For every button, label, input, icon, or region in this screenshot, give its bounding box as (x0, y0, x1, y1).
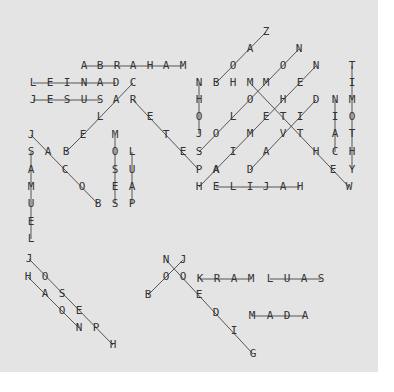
grid-letter[interactable]: S (193, 145, 205, 159)
word-search-board[interactable]: ZAOBNOMOLOSNEHEMIAHDIVADMTTHEWHTIMOTHYNI… (0, 0, 378, 372)
grid-letter[interactable]: P (193, 163, 205, 177)
grid-letter[interactable]: O (39, 270, 51, 284)
grid-letter[interactable]: O (160, 270, 172, 284)
grid-letter[interactable]: S (109, 163, 121, 177)
grid-letter[interactable]: E (210, 180, 222, 194)
grid-letter[interactable]: B (142, 288, 154, 302)
grid-letter[interactable]: A (126, 180, 138, 194)
grid-letter[interactable]: A (228, 272, 240, 286)
grid-letter[interactable]: M (246, 309, 258, 323)
grid-letter[interactable]: H (310, 145, 322, 159)
grid-letter[interactable]: H (193, 93, 205, 107)
grid-letter[interactable]: S (109, 197, 121, 211)
grid-letter[interactable]: I (346, 76, 358, 90)
grid-letter[interactable]: S (25, 145, 37, 159)
grid-letter[interactable]: A (127, 59, 139, 73)
grid-letter[interactable]: P (126, 197, 138, 211)
grid-letter[interactable]: S (56, 287, 68, 301)
grid-letter[interactable]: U (25, 197, 37, 211)
grid-letter[interactable]: O (227, 59, 239, 73)
grid-letter[interactable]: T (294, 127, 306, 141)
grid-letter[interactable]: A (110, 93, 122, 107)
grid-letter[interactable]: K (194, 272, 206, 286)
grid-letter[interactable]: E (294, 76, 306, 90)
grid-letter[interactable]: Y (346, 163, 358, 177)
grid-letter[interactable]: U (126, 163, 138, 177)
grid-letter[interactable]: A (160, 59, 172, 73)
grid-letter[interactable]: N (193, 76, 205, 90)
grid-letter[interactable]: S (315, 272, 327, 286)
grid-letter[interactable]: A (78, 59, 90, 73)
grid-letter[interactable]: L (25, 232, 37, 246)
grid-letter[interactable]: E (144, 110, 156, 124)
grid-letter[interactable]: A (298, 272, 310, 286)
grid-letter[interactable]: E (44, 76, 56, 90)
grid-letter[interactable]: O (210, 127, 222, 141)
grid-letter[interactable]: H (107, 338, 119, 352)
grid-letter[interactable]: A (277, 180, 289, 194)
grid-letter[interactable]: L (27, 76, 39, 90)
grid-letter[interactable]: W (343, 180, 355, 194)
grid-letter[interactable]: H (277, 93, 289, 107)
grid-letter[interactable]: L (264, 272, 276, 286)
grid-letter[interactable]: U (281, 272, 293, 286)
grid-letter[interactable]: A (42, 145, 54, 159)
grid-letter[interactable]: D (310, 93, 322, 107)
grid-letter[interactable]: J (25, 128, 37, 142)
grid-letter[interactable]: I (294, 110, 306, 124)
grid-letter[interactable]: N (293, 42, 305, 56)
grid-letter[interactable]: A (329, 127, 341, 141)
grid-letter[interactable]: M (25, 180, 37, 194)
grid-letter[interactable]: R (211, 272, 223, 286)
grid-letter[interactable]: L (94, 110, 106, 124)
grid-letter[interactable]: E (77, 128, 89, 142)
grid-letter[interactable]: M (346, 93, 358, 107)
grid-letter[interactable]: J (23, 252, 35, 266)
grid-letter[interactable]: B (60, 145, 72, 159)
grid-letter[interactable]: E (109, 180, 121, 194)
grid-letter[interactable]: O (177, 270, 189, 284)
grid-letter[interactable]: E (327, 163, 339, 177)
grid-letter[interactable]: J (27, 93, 39, 107)
grid-letter[interactable]: I (244, 180, 256, 194)
grid-letter[interactable]: O (109, 145, 121, 159)
grid-letter[interactable]: A (299, 309, 311, 323)
grid-letter[interactable]: M (260, 76, 272, 90)
grid-letter[interactable]: A (39, 287, 51, 301)
grid-letter[interactable]: B (210, 76, 222, 90)
grid-letter[interactable]: D (244, 163, 256, 177)
grid-letter[interactable]: E (177, 145, 189, 159)
grid-letter[interactable]: E (25, 215, 37, 229)
grid-letter[interactable]: L (126, 145, 138, 159)
grid-letter[interactable]: A (25, 163, 37, 177)
grid-letter[interactable]: P (90, 321, 102, 335)
grid-letter[interactable]: O (193, 110, 205, 124)
grid-letter[interactable]: H (346, 145, 358, 159)
grid-letter[interactable]: D (110, 76, 122, 90)
grid-letter[interactable]: Z (260, 25, 272, 39)
grid-letter[interactable]: T (277, 110, 289, 124)
grid-letter[interactable]: E (193, 288, 205, 302)
grid-letter[interactable]: V (277, 127, 289, 141)
grid-letter[interactable]: O (277, 59, 289, 73)
grid-letter[interactable]: C (127, 76, 139, 90)
grid-letter[interactable]: B (94, 59, 106, 73)
grid-letter[interactable]: L (227, 180, 239, 194)
grid-letter[interactable]: O (56, 304, 68, 318)
grid-letter[interactable]: T (346, 127, 358, 141)
grid-letter[interactable]: E (260, 110, 272, 124)
grid-letter[interactable]: H (294, 180, 306, 194)
grid-letter[interactable]: L (227, 110, 239, 124)
grid-letter[interactable]: J (193, 127, 205, 141)
grid-letter[interactable]: H (193, 180, 205, 194)
grid-letter[interactable]: M (109, 128, 121, 142)
grid-letter[interactable]: H (22, 270, 34, 284)
grid-letter[interactable]: N (329, 93, 341, 107)
grid-letter[interactable]: U (78, 93, 90, 107)
grid-letter[interactable]: M (244, 76, 256, 90)
grid-letter[interactable]: G (247, 347, 259, 361)
grid-letter[interactable]: S (94, 93, 106, 107)
grid-letter[interactable]: N (310, 59, 322, 73)
grid-letter[interactable]: J (177, 253, 189, 267)
grid-letter[interactable]: A (244, 42, 256, 56)
